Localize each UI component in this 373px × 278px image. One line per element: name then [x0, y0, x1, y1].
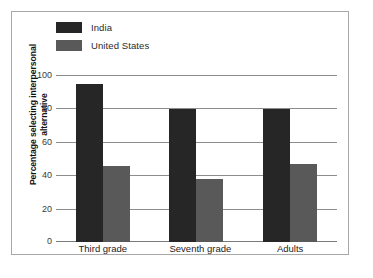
plot-wrapper: Percentage selecting interpersonal alter… — [12, 12, 350, 256]
x-label-adults: Adults — [263, 243, 317, 257]
bar-united-states-adults — [290, 164, 317, 242]
y-axis-title-line1: Percentage selecting interpersonal — [28, 35, 39, 195]
bar-india-adults — [263, 109, 290, 242]
x-axis-category-labels: Third grade Seventh grade Adults — [56, 243, 337, 257]
y-tick-label-100: 100 — [37, 70, 52, 80]
chart-figure-frame: India United States Percentage selecting… — [11, 11, 349, 255]
bar-united-states-seventh-grade — [196, 179, 223, 242]
y-tick-label-80: 80 — [42, 103, 52, 113]
bar-india-seventh-grade — [169, 109, 196, 242]
x-label-third-grade: Third grade — [76, 243, 130, 257]
y-tick-label-60: 60 — [42, 137, 52, 147]
y-tick-label-40: 40 — [42, 170, 52, 180]
plot-area: 100 80 60 40 20 0 — [56, 75, 337, 242]
bar-group-seventh-grade — [169, 75, 223, 242]
y-tick-label-0: 0 — [47, 236, 52, 246]
bars-container — [56, 75, 337, 242]
bar-united-states-third-grade — [103, 166, 130, 242]
y-tick-label-20: 20 — [42, 204, 52, 214]
x-label-seventh-grade: Seventh grade — [169, 243, 223, 257]
bar-india-third-grade — [76, 84, 103, 242]
bar-group-third-grade — [76, 75, 130, 242]
bar-group-adults — [263, 75, 317, 242]
